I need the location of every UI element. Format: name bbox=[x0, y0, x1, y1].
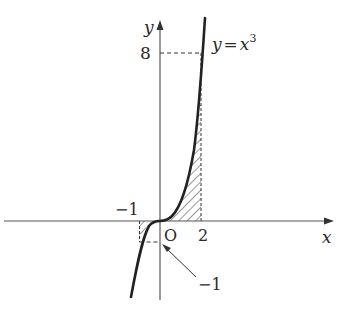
annotation-arrow bbox=[166, 248, 196, 277]
function-label-exp: 3 bbox=[249, 32, 256, 45]
x-axis-arrow-icon bbox=[324, 218, 334, 225]
function-label-eq: = bbox=[224, 34, 238, 54]
tick-label-y8: 8 bbox=[140, 43, 151, 63]
annotation-arrowhead-icon bbox=[162, 244, 171, 252]
function-label-lhs: y bbox=[211, 34, 222, 54]
tick-label-x2: 2 bbox=[198, 226, 208, 245]
y-axis-label: y bbox=[143, 17, 154, 37]
origin-label: O bbox=[164, 226, 177, 245]
x-axis-label: x bbox=[322, 227, 332, 247]
svg-text:y=x3: y=x3 bbox=[211, 32, 256, 54]
cubic-graph: y x O 8 2 −1 −1 y=x3 bbox=[0, 0, 354, 311]
annotation-label-y-neg1: −1 bbox=[198, 275, 222, 294]
y-axis-arrow-icon bbox=[157, 20, 164, 30]
function-label-base: x bbox=[240, 34, 250, 54]
function-label: y=x3 bbox=[211, 32, 256, 54]
tick-label-x-neg1: −1 bbox=[115, 200, 139, 219]
